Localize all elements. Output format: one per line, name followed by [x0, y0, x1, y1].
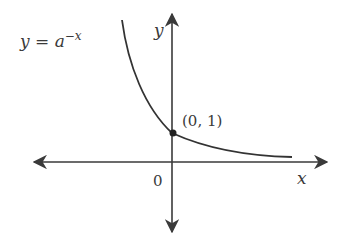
y-axis-label: y: [153, 20, 164, 40]
x-axis-label: x: [297, 168, 307, 188]
point-annotation: (0, 1): [182, 112, 222, 130]
function-label: y = a−x: [19, 29, 82, 51]
exponential-graph: y = a−x y x 0 (0, 1): [0, 0, 343, 238]
exponential-curve: [122, 20, 292, 157]
origin-label: 0: [153, 172, 163, 190]
point-0-1: [170, 130, 177, 137]
